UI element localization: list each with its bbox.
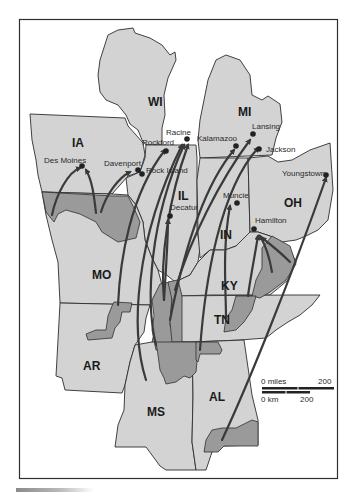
scale-km-end: 200 xyxy=(300,395,314,404)
state-label-al: AL xyxy=(209,390,225,404)
scale-miles-end: 200 xyxy=(318,377,332,386)
state-label-oh: OH xyxy=(284,196,302,210)
state-label-ia: IA xyxy=(72,136,84,150)
migration-map: WI MI IA IL IN OH MO KY TN AR MS AL Des … xyxy=(0,0,360,499)
state-label-il: IL xyxy=(178,189,189,203)
city-label-decatur: Decatur xyxy=(170,203,198,212)
city-label-racine: Racine xyxy=(166,128,191,137)
city-dot-decatur xyxy=(167,213,173,219)
state-label-mi: MI xyxy=(238,105,251,119)
city-label-lansing: Lansing xyxy=(252,122,280,131)
city-label-rock-island: Rock Island xyxy=(146,166,188,175)
city-dot-jackson xyxy=(256,146,262,152)
city-dot-hamilton xyxy=(251,226,257,232)
state-label-ar: AR xyxy=(83,359,101,373)
scale-bar: 0 miles 200 0 km 200 xyxy=(261,377,334,404)
city-dot-racine xyxy=(184,136,190,142)
city-dot-rock-island xyxy=(139,171,145,177)
city-label-des-moines: Des Moines xyxy=(44,156,86,165)
city-label-hamilton: Hamilton xyxy=(255,216,287,225)
city-label-jackson: Jackson xyxy=(266,145,295,154)
state-label-ms: MS xyxy=(147,405,165,419)
city-label-muncie: Muncie xyxy=(223,191,249,200)
state-label-ky: KY xyxy=(221,279,238,293)
state-label-wi: WI xyxy=(148,95,163,109)
city-label-youngstown: Youngstown xyxy=(282,169,325,178)
decorative-gradient-bar xyxy=(16,488,94,492)
city-dot-rockford xyxy=(163,148,169,154)
city-label-kalamazoo: Kalamazoo xyxy=(197,134,238,143)
city-label-rockford: Rockford xyxy=(142,138,174,147)
scale-miles-start: 0 miles xyxy=(261,377,286,386)
city-dot-muncie xyxy=(234,200,240,206)
state-label-tn: TN xyxy=(214,313,230,327)
state-label-in: IN xyxy=(220,228,232,242)
city-dot-davenport xyxy=(135,167,141,173)
city-dot-lansing xyxy=(250,131,256,137)
state-al xyxy=(192,340,258,470)
city-label-davenport: Davenport xyxy=(104,159,142,168)
state-label-mo: MO xyxy=(92,268,111,282)
scale-km-start: 0 km xyxy=(261,395,279,404)
city-dot-kalamazoo xyxy=(233,143,239,149)
